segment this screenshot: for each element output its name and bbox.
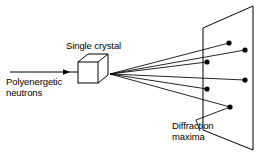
diffracted-ray-2 — [110, 50, 245, 74]
incident-beam-arrowhead — [63, 69, 70, 75]
diffraction-spot-2 — [242, 47, 247, 52]
diffraction-maxima-label-line2: maxima — [172, 131, 205, 142]
cube-front-face — [78, 62, 98, 83]
diffraction-spot-3 — [204, 59, 209, 64]
diffracted-ray-3 — [110, 62, 207, 74]
single-crystal-cube — [78, 54, 108, 83]
diffraction-maxima-label-line1: Diffraction — [172, 120, 214, 131]
diffraction-figure: Polyenergeticneutrons Single crystal Dif… — [0, 0, 260, 155]
diffraction-maxima-label: Diffractionmaxima — [172, 120, 214, 142]
single-crystal-label: Single crystal — [66, 40, 121, 51]
incident-beam-group — [10, 69, 78, 75]
incident-beam-label-line2: neutrons — [6, 87, 42, 98]
diffraction-spot-6 — [227, 104, 232, 109]
diffracted-rays-group — [110, 43, 245, 107]
incident-beam-label-line1: Polyenergetic — [6, 76, 62, 87]
diffracted-ray-1 — [110, 43, 229, 74]
cube-top-face — [78, 54, 108, 62]
diffraction-spot-1 — [226, 40, 231, 45]
diffraction-spot-5 — [204, 86, 209, 91]
single-crystal-label-text: Single crystal — [66, 40, 121, 51]
diffraction-spot-4 — [242, 77, 247, 82]
incident-beam-label: Polyenergeticneutrons — [6, 76, 62, 98]
